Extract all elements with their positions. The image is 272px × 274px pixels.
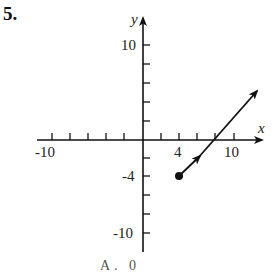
ray-mid-arrow [179,156,200,176]
x-tick-label-neg10: -10 [35,144,55,160]
y-axis: 10 -4 -10 y [113,11,150,252]
y-tick-label-neg10: -10 [113,225,133,241]
answer-choice-partial: A. 0 [100,258,140,274]
y-axis-label: y [129,11,138,27]
y-tick-label-10: 10 [121,37,136,53]
x-tick-label-4: 4 [174,144,182,160]
y-tick-label-neg4: -4 [122,168,135,184]
x-tick-label-10: 10 [224,144,239,160]
x-axis: -10 4 10 x [35,120,265,160]
x-axis-label: x [257,120,265,136]
ray-series [175,91,257,180]
start-point-closed-dot [175,172,183,180]
y-axis-ticks [143,45,150,233]
